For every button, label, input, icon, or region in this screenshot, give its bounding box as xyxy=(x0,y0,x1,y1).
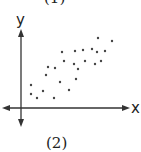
data-point xyxy=(68,89,70,91)
data-point xyxy=(63,60,65,62)
data-point xyxy=(53,97,55,99)
data-point xyxy=(94,63,96,65)
data-point xyxy=(73,63,75,65)
data-point xyxy=(36,97,38,99)
x-axis-label: x xyxy=(131,99,140,117)
data-point xyxy=(104,50,106,52)
y-axis-label: y xyxy=(16,11,25,29)
figure-label-bottom: (2) xyxy=(46,136,67,151)
data-points xyxy=(30,37,113,99)
scatter-plot: y x xyxy=(0,0,141,152)
data-point xyxy=(74,50,76,52)
data-point xyxy=(100,60,102,62)
data-point xyxy=(42,90,44,92)
data-point xyxy=(82,49,84,51)
data-point xyxy=(59,81,61,83)
data-point xyxy=(75,78,77,80)
data-point xyxy=(97,37,99,39)
data-point xyxy=(61,51,63,53)
data-point xyxy=(96,51,98,53)
data-point xyxy=(84,60,86,62)
y-axis xyxy=(18,29,24,127)
data-point xyxy=(30,93,32,95)
data-point xyxy=(47,66,49,68)
data-point xyxy=(91,48,93,50)
data-point xyxy=(30,84,32,86)
data-point xyxy=(45,74,47,76)
data-point xyxy=(111,40,113,42)
data-point xyxy=(54,67,56,69)
data-point xyxy=(77,68,79,70)
